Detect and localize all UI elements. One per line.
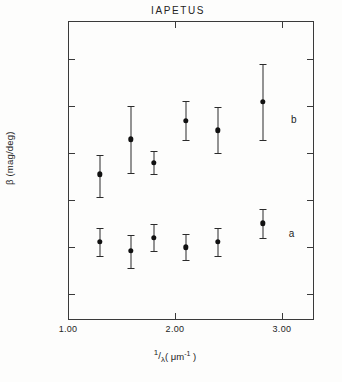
data-point <box>128 137 133 142</box>
data-point <box>151 235 156 240</box>
error-bar-cap-upper <box>150 224 157 225</box>
error-bar-cap-upper <box>182 101 189 102</box>
data-point <box>260 221 265 226</box>
x-tick-label: 3.00 <box>273 324 292 334</box>
error-bar-cap-lower <box>182 260 189 261</box>
x-axis-numerator: 1 <box>154 348 158 357</box>
x-tick-label: 1.00 <box>59 324 78 334</box>
data-point <box>97 172 102 177</box>
error-bar-cap-lower <box>259 238 266 239</box>
y-tick-mark-right <box>307 294 314 295</box>
error-bar-cap-lower <box>97 256 104 257</box>
error-bar-cap-lower <box>128 173 135 174</box>
error-bar-cap-upper <box>128 235 135 236</box>
x-axis-denominator: λ <box>161 355 165 364</box>
data-point <box>151 160 156 165</box>
series-label-b: b <box>291 114 297 125</box>
error-bar-cap-upper <box>214 228 221 229</box>
data-point <box>215 239 220 244</box>
series-label-a: a <box>289 228 295 239</box>
x-axis-unit: μm <box>171 351 184 362</box>
error-bar-cap-lower <box>97 197 104 198</box>
data-point <box>128 248 133 253</box>
y-tick-mark <box>68 153 75 154</box>
y-tick-mark-right <box>307 106 314 107</box>
plot-area: ba <box>68 21 314 320</box>
y-tick-mark-right <box>307 59 314 60</box>
data-point <box>215 128 220 133</box>
x-tick-label: 2.00 <box>166 324 185 334</box>
data-point <box>97 239 102 244</box>
chart-title: IAPETUS <box>0 5 342 16</box>
x-tick-mark <box>175 313 176 320</box>
y-tick-mark-right <box>307 247 314 248</box>
error-bar-cap-lower <box>150 251 157 252</box>
error-bar-cap-lower <box>214 153 221 154</box>
x-axis-unit-close: ) <box>190 351 196 362</box>
y-tick-mark-right <box>307 200 314 201</box>
error-bar-cap-upper <box>259 64 266 65</box>
x-axis-title: 1/λ( μm-1 ) <box>0 349 342 365</box>
error-bar-cap-upper <box>182 234 189 235</box>
error-bar-cap-upper <box>259 209 266 210</box>
error-bar-cap-upper <box>150 151 157 152</box>
y-tick-mark-right <box>307 153 314 154</box>
data-point <box>183 118 188 123</box>
error-bar-cap-upper <box>128 106 135 107</box>
error-bar-cap-lower <box>214 256 221 257</box>
y-tick-mark <box>68 247 75 248</box>
y-tick-mark <box>68 59 75 60</box>
error-bar-cap-lower <box>128 268 135 269</box>
x-axis-fraction: 1/λ <box>154 348 165 364</box>
error-bar-cap-upper <box>97 228 104 229</box>
error-bar-cap-lower <box>150 174 157 175</box>
error-bar-cap-upper <box>214 107 221 108</box>
error-bar-cap-lower <box>182 140 189 141</box>
y-axis-title: β (mag/deg) <box>4 131 15 185</box>
x-tick-mark-top <box>175 21 176 28</box>
y-tick-mark <box>68 294 75 295</box>
data-point <box>260 99 265 104</box>
data-point <box>183 245 188 250</box>
error-bar-cap-lower <box>259 140 266 141</box>
figure-iapetus-phase-coefficient: IAPETUS ba 0.0700.0600.0500.0400.0300.02… <box>0 0 342 382</box>
x-tick-mark-top <box>282 21 283 28</box>
y-tick-mark <box>68 200 75 201</box>
x-tick-mark <box>282 313 283 320</box>
error-bar-cap-upper <box>97 155 104 156</box>
y-tick-mark <box>68 106 75 107</box>
